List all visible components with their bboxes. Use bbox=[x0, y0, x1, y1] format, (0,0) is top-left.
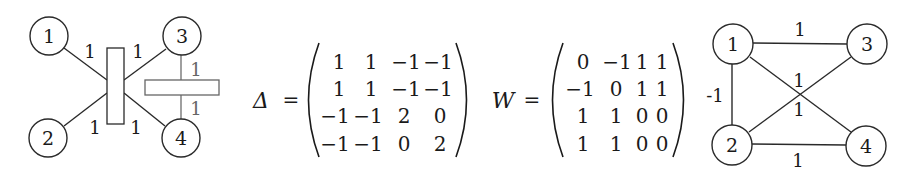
w-row-3: 1 1 0 0 bbox=[577, 132, 669, 156]
svg-text:3: 3 bbox=[861, 33, 873, 55]
left-paren bbox=[309, 43, 320, 157]
svg-text:−1: −1 bbox=[423, 77, 452, 101]
svg-text:−1: −1 bbox=[353, 132, 382, 156]
equals-sign: = bbox=[524, 88, 541, 112]
svg-text:3: 3 bbox=[176, 25, 188, 47]
svg-text:0: 0 bbox=[610, 77, 623, 101]
svg-text:−1: −1 bbox=[391, 50, 420, 74]
graph-node-2: 2 bbox=[712, 125, 752, 165]
svg-text:−1: −1 bbox=[391, 77, 420, 101]
svg-text:−1: −1 bbox=[423, 50, 452, 74]
graph-node-3: 3 bbox=[847, 24, 887, 64]
hypergraph-figure: 1 1 1 1 1 1 1 2 3 4 Δ = 1 1 −1 bbox=[0, 0, 913, 178]
delta-row-1: 1 1 −1 −1 bbox=[333, 77, 453, 101]
w-matrix: W = 0 −1 1 1 −1 0 1 1 1 1 0 0 1 1 0 0 bbox=[492, 43, 684, 157]
delta-row-2: −1 −1 2 0 bbox=[320, 104, 446, 128]
svg-text:0: 0 bbox=[656, 132, 669, 156]
svg-text:4: 4 bbox=[860, 135, 872, 157]
svg-text:1: 1 bbox=[610, 104, 623, 128]
weight-label: 1 bbox=[84, 41, 95, 62]
svg-text:0: 0 bbox=[636, 132, 649, 156]
svg-text:0: 0 bbox=[656, 104, 669, 128]
hyperedge-horizontal bbox=[145, 80, 219, 95]
svg-text:0: 0 bbox=[398, 132, 411, 156]
w-symbol: W bbox=[492, 88, 517, 113]
right-paren bbox=[456, 43, 467, 157]
hyperedge-line-3 bbox=[124, 49, 166, 80]
weight-label: 1 bbox=[130, 117, 141, 138]
edge-weight-1-3: 1 bbox=[794, 19, 805, 40]
svg-text:1: 1 bbox=[636, 77, 649, 101]
hypergraph-node-4: 4 bbox=[162, 119, 200, 157]
weight-label: 1 bbox=[190, 98, 201, 119]
delta-row-3: −1 −1 0 2 bbox=[320, 132, 446, 156]
svg-text:2: 2 bbox=[726, 134, 738, 156]
svg-text:−1: −1 bbox=[320, 132, 349, 156]
hyperedge-vertical bbox=[107, 48, 124, 124]
svg-text:1: 1 bbox=[43, 25, 55, 47]
svg-text:1: 1 bbox=[333, 77, 346, 101]
hypergraph: 1 1 1 1 1 1 1 2 3 4 bbox=[29, 17, 219, 157]
svg-text:1: 1 bbox=[636, 50, 649, 74]
svg-text:1: 1 bbox=[656, 77, 669, 101]
svg-text:4: 4 bbox=[175, 127, 187, 149]
svg-text:−1: −1 bbox=[565, 77, 594, 101]
svg-text:2: 2 bbox=[398, 104, 411, 128]
delta-row-0: 1 1 −1 −1 bbox=[333, 50, 453, 74]
equals-sign: = bbox=[283, 88, 300, 112]
left-paren bbox=[553, 43, 564, 157]
svg-text:2: 2 bbox=[42, 127, 54, 149]
weight-label: 1 bbox=[132, 41, 143, 62]
weight-label: 1 bbox=[89, 117, 100, 138]
svg-text:1: 1 bbox=[365, 50, 378, 74]
graph-node-1: 1 bbox=[713, 24, 753, 64]
hypergraph-node-2: 2 bbox=[29, 119, 67, 157]
svg-text:−1: −1 bbox=[602, 50, 631, 74]
weighted-graph: 1 -1 1 1 1 1 2 3 4 bbox=[706, 19, 887, 171]
hypergraph-node-3: 3 bbox=[163, 17, 201, 55]
svg-text:1: 1 bbox=[577, 132, 590, 156]
edge-weight-1-4: 1 bbox=[793, 70, 804, 91]
svg-text:−1: −1 bbox=[353, 104, 382, 128]
svg-text:1: 1 bbox=[365, 77, 378, 101]
w-row-1: −1 0 1 1 bbox=[565, 77, 668, 101]
svg-text:1: 1 bbox=[610, 132, 623, 156]
svg-text:0: 0 bbox=[636, 104, 649, 128]
edge-weight-2-3: 1 bbox=[793, 99, 804, 120]
delta-symbol: Δ bbox=[252, 88, 269, 113]
svg-text:1: 1 bbox=[656, 50, 669, 74]
svg-text:−1: −1 bbox=[320, 104, 349, 128]
svg-text:2: 2 bbox=[434, 132, 447, 156]
svg-text:1: 1 bbox=[333, 50, 346, 74]
edge-weight-2-4: 1 bbox=[792, 150, 803, 171]
svg-text:0: 0 bbox=[434, 104, 447, 128]
right-paren bbox=[673, 43, 684, 157]
w-row-2: 1 1 0 0 bbox=[577, 104, 669, 128]
svg-text:1: 1 bbox=[727, 33, 739, 55]
weight-label: 1 bbox=[190, 59, 201, 80]
w-row-0: 0 −1 1 1 bbox=[577, 50, 669, 74]
graph-node-4: 4 bbox=[846, 126, 886, 166]
delta-matrix: Δ = 1 1 −1 −1 1 1 −1 −1 −1 −1 2 0 −1 −1 … bbox=[252, 43, 466, 157]
edge-weight-1-2: -1 bbox=[706, 85, 724, 106]
hypergraph-node-1: 1 bbox=[30, 17, 68, 55]
edge-2-4 bbox=[752, 144, 846, 145]
svg-text:0: 0 bbox=[577, 50, 590, 74]
svg-text:1: 1 bbox=[577, 104, 590, 128]
edge-1-3 bbox=[753, 43, 847, 44]
